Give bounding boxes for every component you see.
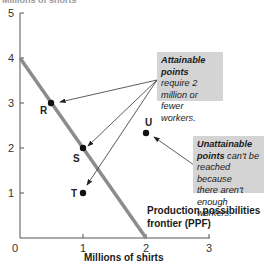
y-tick-3: 3	[8, 97, 14, 109]
attainable-text-1: require 2	[161, 78, 197, 88]
point-T	[80, 190, 86, 196]
label-R: R	[40, 105, 48, 116]
point-R	[48, 100, 54, 106]
unattainable-text-3: there aren't	[197, 185, 243, 195]
label-U: U	[145, 117, 152, 128]
attainable-heading-2: points	[161, 67, 189, 77]
x-axis-title: Millions of shirts	[84, 252, 163, 263]
unattainable-text-2: reached because	[197, 162, 232, 184]
unattainable-callout: Unattainable points can't be reached bec…	[193, 136, 264, 193]
label-S: S	[73, 153, 80, 164]
x-tick-0: 0	[12, 242, 18, 254]
attainable-text-3: workers.	[161, 113, 196, 123]
unattainable-heading: Unattainable	[197, 139, 252, 149]
unattainable-text-1: can't be	[225, 151, 259, 161]
label-T: T	[71, 188, 77, 199]
ppf-label-line2: frontier (PPF)	[147, 218, 211, 229]
ppf-label: Production possibilities frontier (PPF)	[147, 205, 260, 230]
unattainable-heading-2: points	[197, 151, 225, 161]
arrow-to-U	[154, 137, 194, 165]
y-tick-2: 2	[8, 142, 14, 154]
attainable-callout: Attainable points require 2 million or f…	[157, 52, 223, 101]
ppf-label-line1: Production possibilities	[147, 205, 260, 216]
y-tick-1: 1	[8, 187, 14, 199]
arrow-to-R	[60, 80, 157, 102]
point-U	[143, 130, 149, 136]
y-ticks	[20, 13, 24, 193]
y-tick-4: 4	[8, 52, 14, 64]
y-tick-5: 5	[8, 7, 14, 19]
x-tick-3: 3	[206, 242, 212, 254]
point-S	[80, 145, 86, 151]
attainable-heading: Attainable	[161, 55, 205, 65]
